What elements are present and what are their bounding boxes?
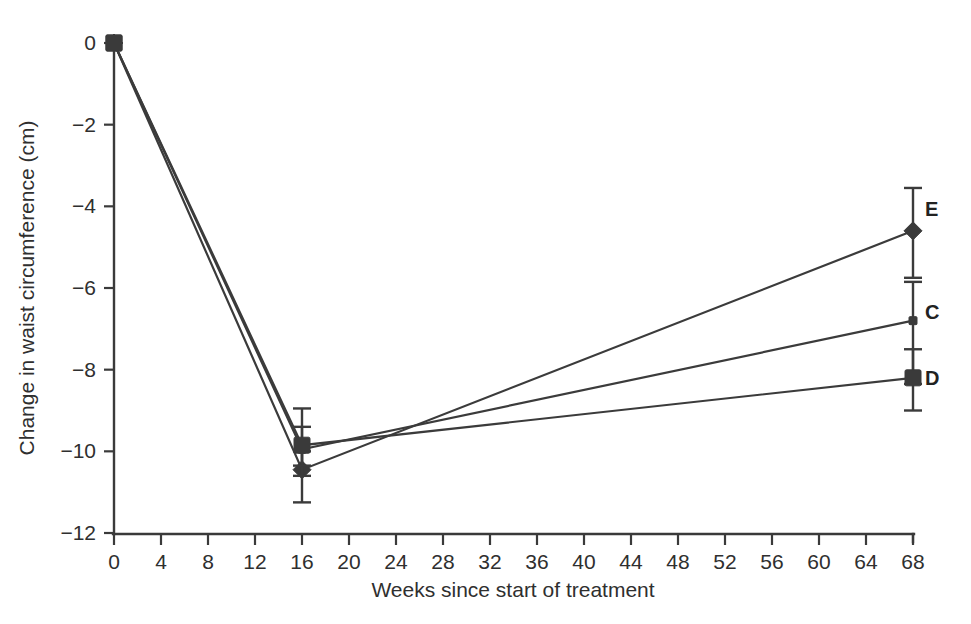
y-tick-label: −6: [72, 276, 96, 299]
x-tick-label: 52: [713, 550, 736, 573]
x-tick-label: 56: [760, 550, 783, 573]
data-point-marker: [905, 370, 921, 386]
x-tick-label: 8: [202, 550, 214, 573]
x-tick-label: 16: [290, 550, 313, 573]
x-tick-label: 12: [243, 550, 266, 573]
series-d: [106, 35, 922, 466]
x-tick-label: 60: [807, 550, 830, 573]
axes-group: [113, 41, 914, 542]
x-tick-label: 36: [525, 550, 548, 573]
x-tick-label: 4: [155, 550, 167, 573]
series-c: [106, 35, 922, 476]
y-tick-label: −4: [72, 194, 96, 217]
series-e: [105, 34, 922, 502]
data-point-marker: [904, 222, 922, 240]
x-axis-ticks: 048121620242832364044485256606468: [108, 534, 925, 573]
line-chart: 0−2−4−6−8−10−12 048121620242832364044485…: [0, 0, 971, 624]
x-tick-label: 0: [108, 550, 120, 573]
x-tick-label: 20: [337, 550, 360, 573]
y-tick-label: 0: [84, 31, 96, 54]
plot-area: [105, 34, 922, 502]
series-label-c: C: [925, 301, 939, 323]
data-point-marker: [909, 317, 917, 325]
x-tick-label: 64: [854, 550, 878, 573]
x-tick-label: 28: [431, 550, 454, 573]
x-tick-label: 32: [478, 550, 501, 573]
x-tick-label: 44: [619, 550, 643, 573]
y-tick-label: −8: [72, 358, 96, 381]
y-axis-ticks: 0−2−4−6−8−10−12: [60, 31, 114, 544]
data-point-marker: [106, 35, 122, 51]
series-line-d: [114, 43, 913, 445]
figure-container: 0−2−4−6−8−10−12 048121620242832364044485…: [0, 0, 971, 624]
y-axis-title: Change in waist circumference (cm): [15, 121, 38, 456]
x-tick-label: 40: [572, 550, 595, 573]
x-axis-title: Weeks since start of treatment: [371, 578, 654, 601]
series-label-e: E: [925, 198, 938, 220]
data-point-marker: [294, 437, 310, 453]
series-label-d: D: [925, 367, 939, 389]
x-tick-label: 24: [384, 550, 408, 573]
y-tick-label: −2: [72, 113, 96, 136]
series-line-c: [114, 43, 913, 449]
y-tick-label: −10: [60, 439, 96, 462]
y-tick-label: −12: [60, 521, 96, 544]
x-tick-label: 48: [666, 550, 689, 573]
x-tick-label: 68: [901, 550, 924, 573]
